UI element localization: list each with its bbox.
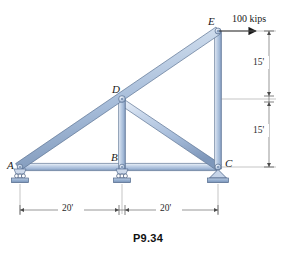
joint-pin-D: [119, 96, 126, 103]
joint-label-D: D: [112, 84, 120, 95]
member-E-C: [215, 31, 222, 169]
dimension-label-vertical-top: 15': [253, 58, 264, 68]
joint-label-C: C: [225, 158, 232, 169]
dimension-vertical-chain: [221, 31, 276, 167]
member-D-C: [119, 96, 221, 170]
support-roller-B: [114, 169, 131, 183]
joint-label-B: B: [111, 152, 118, 163]
dimension-label-vertical-bottom: 15': [253, 126, 264, 136]
member-D-B: [119, 99, 126, 170]
dimension-label-horizontal-right: 20': [160, 204, 171, 214]
joint-label-A: A: [7, 160, 14, 171]
support-roller-A: [12, 169, 29, 183]
load-label: 100 kips: [232, 14, 266, 24]
support-pin-C: [208, 170, 229, 183]
truss-diagram: [0, 0, 296, 254]
dimension-label-horizontal-left: 20': [62, 204, 73, 214]
figure-caption: P9.34: [0, 232, 296, 244]
joint-label-E: E: [208, 16, 215, 27]
dimension-horizontal-chain: [20, 184, 218, 216]
